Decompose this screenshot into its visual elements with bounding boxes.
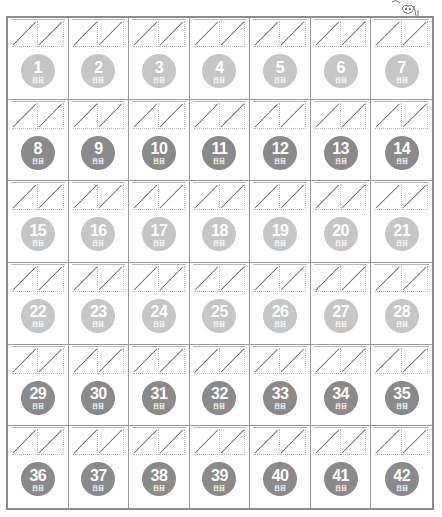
day-cell[interactable]: 24日目 <box>129 263 190 345</box>
check-box[interactable] <box>402 348 428 374</box>
day-cell[interactable]: 10日目 <box>129 100 190 182</box>
day-cell[interactable]: 39日目 <box>190 426 251 508</box>
day-cell[interactable]: 34日目 <box>311 345 372 427</box>
day-cell[interactable]: 37日目 <box>69 426 130 508</box>
check-box[interactable] <box>280 21 306 47</box>
check-box[interactable] <box>341 429 367 455</box>
check-box[interactable] <box>375 103 401 129</box>
check-box[interactable] <box>402 103 428 129</box>
check-box[interactable] <box>98 348 124 374</box>
day-cell[interactable]: 33日目 <box>250 345 311 427</box>
check-box[interactable] <box>38 266 64 292</box>
check-box[interactable] <box>220 266 246 292</box>
check-box[interactable] <box>159 266 185 292</box>
check-box[interactable] <box>341 21 367 47</box>
check-box[interactable] <box>220 184 246 210</box>
check-box[interactable] <box>98 184 124 210</box>
check-box[interactable] <box>133 266 159 292</box>
check-box[interactable] <box>12 184 38 210</box>
check-box[interactable] <box>38 184 64 210</box>
check-box[interactable] <box>73 429 99 455</box>
check-box[interactable] <box>159 21 185 47</box>
check-box[interactable] <box>280 184 306 210</box>
check-box[interactable] <box>315 21 341 47</box>
check-box[interactable] <box>194 21 220 47</box>
check-box[interactable] <box>194 348 220 374</box>
check-box[interactable] <box>133 103 159 129</box>
check-box[interactable] <box>375 266 401 292</box>
check-box[interactable] <box>159 103 185 129</box>
check-box[interactable] <box>254 184 280 210</box>
day-cell[interactable]: 31日目 <box>129 345 190 427</box>
day-cell[interactable]: 16日目 <box>69 181 130 263</box>
check-box[interactable] <box>159 184 185 210</box>
day-cell[interactable]: 6日目 <box>311 18 372 100</box>
day-cell[interactable]: 2日目 <box>69 18 130 100</box>
day-cell[interactable]: 17日目 <box>129 181 190 263</box>
day-cell[interactable]: 13日目 <box>311 100 372 182</box>
check-box[interactable] <box>73 184 99 210</box>
day-cell[interactable]: 25日目 <box>190 263 251 345</box>
day-cell[interactable]: 23日目 <box>69 263 130 345</box>
check-box[interactable] <box>341 348 367 374</box>
check-box[interactable] <box>98 103 124 129</box>
day-cell[interactable]: 8日目 <box>8 100 69 182</box>
day-cell[interactable]: 35日目 <box>371 345 432 427</box>
check-box[interactable] <box>280 103 306 129</box>
check-box[interactable] <box>375 348 401 374</box>
check-box[interactable] <box>375 429 401 455</box>
check-box[interactable] <box>159 429 185 455</box>
check-box[interactable] <box>254 266 280 292</box>
check-box[interactable] <box>194 429 220 455</box>
check-box[interactable] <box>133 429 159 455</box>
check-box[interactable] <box>12 103 38 129</box>
check-box[interactable] <box>98 21 124 47</box>
day-cell[interactable]: 29日目 <box>8 345 69 427</box>
check-box[interactable] <box>315 266 341 292</box>
check-box[interactable] <box>254 429 280 455</box>
day-cell[interactable]: 15日目 <box>8 181 69 263</box>
check-box[interactable] <box>315 184 341 210</box>
day-cell[interactable]: 3日目 <box>129 18 190 100</box>
check-box[interactable] <box>341 184 367 210</box>
check-box[interactable] <box>133 21 159 47</box>
day-cell[interactable]: 27日目 <box>311 263 372 345</box>
check-box[interactable] <box>315 348 341 374</box>
check-box[interactable] <box>98 266 124 292</box>
check-box[interactable] <box>254 348 280 374</box>
check-box[interactable] <box>341 266 367 292</box>
day-cell[interactable]: 18日目 <box>190 181 251 263</box>
day-cell[interactable]: 28日目 <box>371 263 432 345</box>
check-box[interactable] <box>194 266 220 292</box>
check-box[interactable] <box>220 21 246 47</box>
check-box[interactable] <box>38 429 64 455</box>
check-box[interactable] <box>280 266 306 292</box>
check-box[interactable] <box>375 21 401 47</box>
check-box[interactable] <box>133 348 159 374</box>
day-cell[interactable]: 26日目 <box>250 263 311 345</box>
check-box[interactable] <box>402 429 428 455</box>
check-box[interactable] <box>220 429 246 455</box>
day-cell[interactable]: 9日目 <box>69 100 130 182</box>
day-cell[interactable]: 20日目 <box>311 181 372 263</box>
day-cell[interactable]: 4日目 <box>190 18 251 100</box>
day-cell[interactable]: 14日目 <box>371 100 432 182</box>
check-box[interactable] <box>341 103 367 129</box>
check-box[interactable] <box>12 266 38 292</box>
day-cell[interactable]: 12日目 <box>250 100 311 182</box>
day-cell[interactable]: 30日目 <box>69 345 130 427</box>
check-box[interactable] <box>254 21 280 47</box>
check-box[interactable] <box>38 103 64 129</box>
day-cell[interactable]: 38日目 <box>129 426 190 508</box>
check-box[interactable] <box>73 103 99 129</box>
check-box[interactable] <box>375 184 401 210</box>
check-box[interactable] <box>12 348 38 374</box>
check-box[interactable] <box>12 21 38 47</box>
check-box[interactable] <box>12 429 38 455</box>
day-cell[interactable]: 1日目 <box>8 18 69 100</box>
check-box[interactable] <box>133 184 159 210</box>
day-cell[interactable]: 22日目 <box>8 263 69 345</box>
check-box[interactable] <box>194 184 220 210</box>
day-cell[interactable]: 40日目 <box>250 426 311 508</box>
check-box[interactable] <box>194 103 220 129</box>
